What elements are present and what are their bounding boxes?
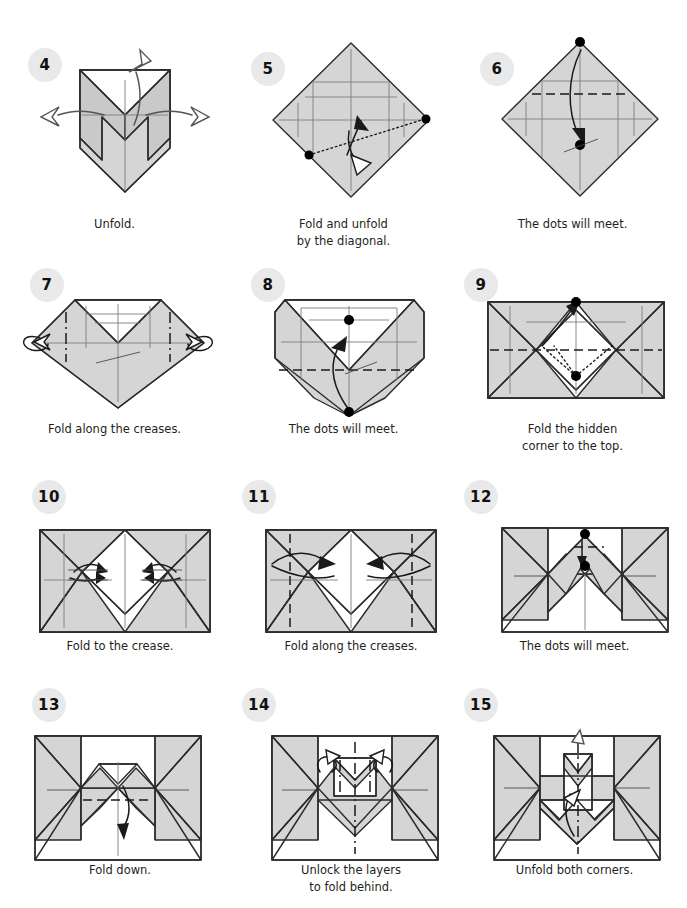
step-figure-8 [267, 290, 432, 415]
step-number-badge-10: 10 [32, 480, 66, 514]
step-panel-6: 6 The dots will mee [458, 10, 687, 255]
step-caption-4: Unfold. [0, 216, 229, 233]
step-caption-13: Fold down. [0, 862, 240, 879]
step-panel-10: 10 [0, 472, 240, 677]
step-panel-4: 4 [0, 10, 229, 255]
step-number-badge-13: 13 [32, 688, 66, 722]
step-caption-11: Fold along the creases. [240, 638, 462, 655]
step-number-badge-11: 11 [242, 480, 276, 514]
step-figure-13 [25, 728, 210, 868]
step-panel-12: 12 [462, 472, 687, 677]
step-panel-14: 14 [240, 680, 462, 905]
step-caption-7: Fold along the creases. [0, 421, 229, 438]
step-caption-6: The dots will meet. [458, 216, 687, 233]
step-panel-5: 5 [229, 10, 458, 255]
step-panel-13: 13 [0, 680, 240, 905]
step-caption-5: Fold and unfold by the diagonal. [229, 216, 458, 249]
step-caption-14: Unlock the layers to fold behind. [240, 862, 462, 895]
step-caption-8: The dots will meet. [229, 421, 458, 438]
step-number-badge-14: 14 [242, 688, 276, 722]
step-caption-10: Fold to the crease. [0, 638, 240, 655]
step-panel-15: 15 [462, 680, 687, 905]
step-figure-9 [476, 294, 676, 409]
step-caption-9: Fold the hidden corner to the top. [458, 421, 687, 454]
step-panel-8: 8 [229, 258, 458, 468]
step-figure-4 [30, 20, 220, 205]
step-panel-7: 7 [0, 258, 229, 468]
step-figure-5 [261, 35, 441, 210]
step-figure-6 [488, 28, 673, 208]
step-number-badge-12: 12 [464, 480, 498, 514]
step-figure-10 [22, 524, 227, 639]
origami-instruction-sheet: 4 [0, 0, 687, 908]
step-panel-9: 9 [458, 258, 687, 468]
step-figure-12 [492, 520, 677, 640]
step-figure-15 [484, 728, 669, 868]
step-panel-11: 11 [240, 472, 462, 677]
step-figure-11 [248, 524, 453, 639]
step-figure-14 [262, 728, 447, 868]
step-figure-7 [18, 290, 218, 415]
step-caption-15: Unfold both corners. [462, 862, 687, 879]
step-number-badge-15: 15 [464, 688, 498, 722]
step-caption-12: The dots will meet. [462, 638, 687, 655]
